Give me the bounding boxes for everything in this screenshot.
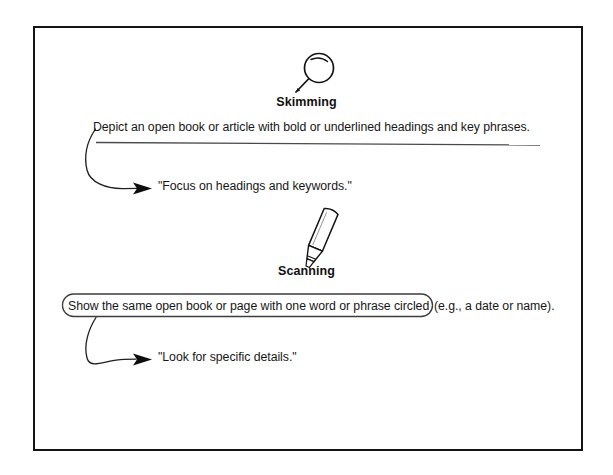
quote-skimming: "Focus on headings and keywords." <box>158 179 352 193</box>
description-scanning-tail: (e.g., a date or name). <box>434 299 555 313</box>
heading-scanning: Scanning <box>0 264 613 278</box>
heading-skimming: Skimming <box>0 95 613 109</box>
description-skimming: Depict an open book or article with bold… <box>93 120 530 134</box>
diagram-border-frame <box>33 26 583 451</box>
diagram-canvas: Skimming Depict an open book or article … <box>0 0 613 475</box>
description-scanning-circled: Show the same open book or page with one… <box>68 299 429 313</box>
quote-scanning: "Look for specific details." <box>158 350 297 364</box>
